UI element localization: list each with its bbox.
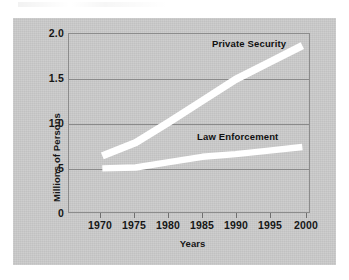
x-tick: [236, 213, 237, 218]
y-tick-label: 0: [30, 207, 64, 219]
y-axis-tick-labels: 2.0 1.5 1.0 .5 0: [28, 33, 64, 213]
y-tick-label: 1.5: [30, 72, 64, 84]
scan-artifact: [18, 2, 168, 7]
x-tick: [202, 213, 203, 218]
y-tick-label: .5: [30, 162, 64, 174]
chart-figure: Millions of Persons 2.0 1.5 1.0 .5 0 197…: [0, 0, 349, 280]
x-axis-title: Years: [180, 238, 205, 249]
x-axis-tick-labels: 1970 1975 1980 1985 1990 1995 2000: [0, 219, 349, 235]
x-tick-label: 1995: [250, 219, 290, 231]
x-tick: [168, 213, 169, 218]
y-tick-label: 2.0: [30, 27, 64, 39]
x-tick: [100, 213, 101, 218]
line-law-enforcement: [102, 147, 302, 168]
x-tick: [270, 213, 271, 218]
y-tick-label: 1.0: [30, 117, 64, 129]
series-label-private-security: Private Security: [212, 38, 286, 49]
x-axis-title-wrap: Years: [0, 238, 349, 249]
x-tick: [306, 213, 307, 218]
plot-area: [68, 33, 310, 213]
series-lines: [69, 34, 309, 212]
x-tick-label: 2000: [286, 219, 326, 231]
series-label-law-enforcement: Law Enforcement: [197, 131, 278, 142]
x-tick: [134, 213, 135, 218]
